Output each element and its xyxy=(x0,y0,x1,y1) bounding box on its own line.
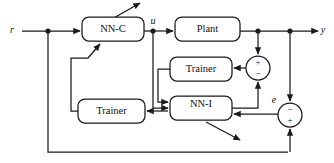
signal-label-u: u xyxy=(151,15,156,26)
summing-junction-upper[interactable]: + − xyxy=(246,56,270,80)
block-nn-c-label: NN-C xyxy=(100,23,126,34)
summing-junction-upper-sign-plus: + xyxy=(255,57,260,67)
wire-r-feedback-rail xyxy=(48,31,288,152)
block-plant[interactable]: Plant xyxy=(175,17,240,41)
block-nn-i[interactable]: NN-I xyxy=(170,96,232,120)
block-nn-c[interactable]: NN-C xyxy=(82,17,144,41)
wire-nni-to-sum-upper xyxy=(232,82,258,108)
block-trainer-1[interactable]: Trainer xyxy=(170,57,232,81)
block-trainer-2[interactable]: Trainer xyxy=(78,99,145,123)
summing-junction-lower-sign-minus: − xyxy=(287,104,292,114)
signal-label-e: e xyxy=(272,94,277,105)
block-diagram-svg: NN-C Plant Trainer NN-I Trainer + − − xyxy=(0,0,334,163)
signal-label-r: r xyxy=(10,24,14,35)
block-diagram-canvas: NN-C Plant Trainer NN-I Trainer + − − xyxy=(0,0,334,163)
node-dot-r xyxy=(45,28,50,33)
block-nn-i-label: NN-I xyxy=(190,98,213,109)
wire-trainer1-to-nni xyxy=(158,69,170,102)
node-dot-u xyxy=(150,28,155,33)
signal-label-y: y xyxy=(320,24,326,35)
block-trainer-2-label: Trainer xyxy=(96,105,127,116)
wire-nni-adaptation-arrow xyxy=(206,122,240,140)
node-dot-y xyxy=(287,28,292,33)
node-dot-plant-output xyxy=(255,28,260,33)
summing-junction-lower[interactable]: − + xyxy=(278,103,302,127)
summing-junction-lower-sign-plus: + xyxy=(287,115,292,125)
block-trainer-1-label: Trainer xyxy=(186,63,217,74)
summing-junction-upper-sign-minus: − xyxy=(255,68,260,78)
block-plant-label: Plant xyxy=(197,23,219,34)
